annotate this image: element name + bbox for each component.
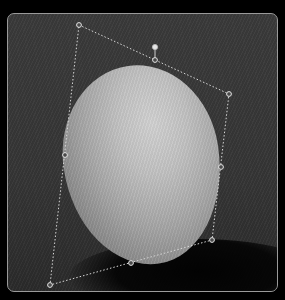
transform-bounding-box[interactable]	[0, 0, 285, 300]
bottom-left-corner-handle[interactable]	[48, 283, 53, 288]
left-middle-handle[interactable]	[63, 153, 68, 158]
rotate-handle[interactable]	[152, 44, 157, 49]
bottom-right-corner-handle[interactable]	[210, 238, 215, 243]
transform-outline	[50, 25, 229, 285]
top-right-corner-handle[interactable]	[227, 92, 232, 97]
top-middle-handle[interactable]	[153, 58, 158, 63]
right-middle-handle[interactable]	[219, 165, 224, 170]
top-left-corner-handle[interactable]	[77, 23, 82, 28]
bottom-middle-handle[interactable]	[129, 261, 134, 266]
